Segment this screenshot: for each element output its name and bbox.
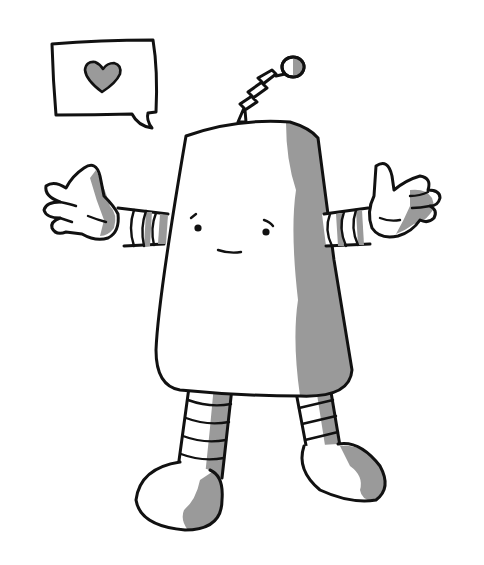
left-eye [194, 224, 201, 231]
right-hand [369, 164, 440, 237]
robot-body [156, 121, 352, 396]
right-foot [302, 443, 385, 500]
left-hand [44, 165, 118, 239]
heart-icon [85, 62, 120, 92]
robot-illustration [0, 0, 484, 565]
right-eye [262, 228, 269, 235]
speech-bubble [52, 40, 157, 128]
antenna [238, 57, 304, 122]
left-foot [136, 462, 222, 530]
